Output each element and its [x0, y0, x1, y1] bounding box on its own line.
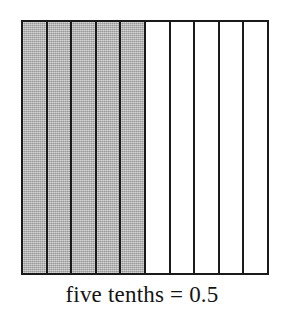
fraction-cell-7 — [171, 22, 196, 273]
fraction-cell-9 — [220, 22, 245, 273]
fraction-cell-6 — [146, 22, 171, 273]
fraction-cell-3 — [72, 22, 97, 273]
fraction-cell-8 — [195, 22, 220, 273]
fraction-bar-whole — [21, 20, 269, 275]
fraction-figure: five tenths = 0.5 — [0, 0, 284, 311]
fraction-cell-5 — [121, 22, 146, 273]
figure-caption: five tenths = 0.5 — [0, 281, 284, 309]
fraction-cell-2 — [48, 22, 73, 273]
fraction-cell-10 — [244, 22, 267, 273]
fraction-cell-1 — [23, 22, 48, 273]
fraction-cell-4 — [97, 22, 122, 273]
